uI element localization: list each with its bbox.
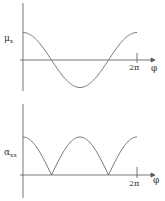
bottom-x-label: φ: [153, 176, 159, 185]
bottom-y-label: αxx: [4, 148, 17, 158]
top-x-arrow-icon: [151, 58, 155, 62]
top-y-label: μx: [4, 34, 13, 44]
bottom-2pi-label: 2π: [129, 180, 139, 188]
top-x-label: φ: [151, 64, 157, 73]
bottom-y-label-sub: xx: [10, 151, 17, 158]
bottom-curve: [23, 137, 137, 175]
top-y-label-sub: x: [10, 37, 13, 44]
top-plot: [20, 3, 155, 91]
figure: [0, 0, 165, 201]
top-2pi-label: 2π: [129, 64, 139, 72]
